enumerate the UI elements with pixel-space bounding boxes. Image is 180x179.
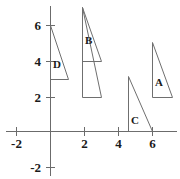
x-tick-label-neg2: -2	[11, 136, 22, 151]
triangle-d-label: D	[53, 58, 61, 70]
x-tick-label-4: 4	[115, 136, 122, 151]
x-tick-label-6: 6	[149, 136, 156, 151]
y-tick-label-4: 4	[35, 54, 42, 69]
coordinate-plane-figure: -2 2 4 6 6 4 2 -2 D B C A	[0, 0, 180, 179]
triangle-a	[153, 43, 173, 98]
y-tick-label-2: 2	[35, 90, 42, 105]
plot-svg: -2 2 4 6 6 4 2 -2 D B C A	[0, 0, 180, 179]
triangle-c-label: C	[131, 114, 139, 126]
triangle-d	[51, 26, 69, 80]
y-tick-label-6: 6	[35, 18, 42, 33]
triangle-a-label: A	[155, 76, 163, 88]
x-tick-label-2: 2	[81, 136, 88, 151]
triangle-b-label: B	[85, 34, 93, 46]
y-tick-label-neg2: -2	[30, 160, 41, 175]
